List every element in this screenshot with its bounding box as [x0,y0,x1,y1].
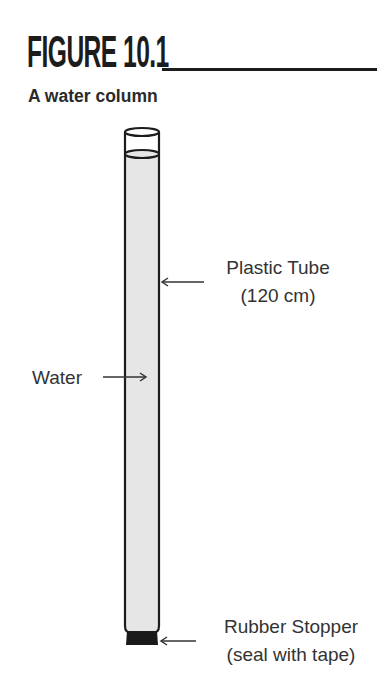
stopper-arrow-icon [161,637,196,645]
stopper-label: Rubber Stopper (seal with tape) [204,613,378,669]
water-column-diagram [0,0,391,687]
rubber-stopper [126,631,158,645]
tube-label-length: (120 cm) [206,282,350,310]
water-label: Water [32,364,82,392]
tube-label: Plastic Tube (120 cm) [206,254,350,310]
water-surface [125,150,159,158]
tube-arrow-icon [162,278,204,286]
tube-label-name: Plastic Tube [206,254,350,282]
water-fill [126,154,158,632]
stopper-label-note: (seal with tape) [204,641,378,669]
stopper-label-name: Rubber Stopper [204,613,378,641]
